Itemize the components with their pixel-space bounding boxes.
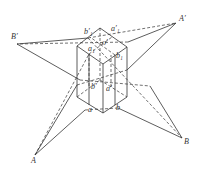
label-a1: a₁ xyxy=(88,45,95,53)
label-b: b xyxy=(116,104,120,112)
label-o-prime: o′ xyxy=(102,39,108,47)
label-b-prime: b′ xyxy=(91,83,97,91)
label-a1-prime: a′₁ xyxy=(111,25,120,33)
label-b1-prime: b′₁ xyxy=(84,28,93,36)
diagram: B′ A′ A B b′₁ a′₁ a₁ o′ b₁ b′ a′ a b xyxy=(0,0,203,183)
label-B-prime: B′ xyxy=(11,33,18,41)
label-b1: b₁ xyxy=(116,52,123,60)
label-B: B xyxy=(184,138,189,146)
label-a: a xyxy=(88,106,92,114)
label-A: A xyxy=(31,157,36,165)
label-a-prime: a′ xyxy=(106,85,112,93)
label-A-prime: A′ xyxy=(179,15,186,23)
